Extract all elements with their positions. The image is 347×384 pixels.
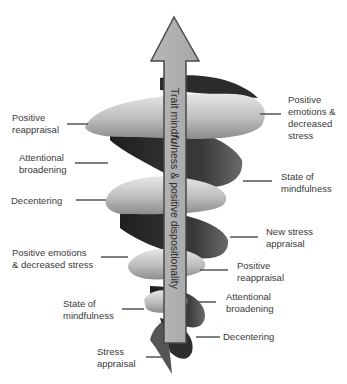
- label-attentional-broadening-upper: Attentional broadening: [19, 152, 67, 176]
- arrow-label-part-1: Trait mind: [169, 88, 181, 134]
- label-decentering-lower: Decentering: [223, 331, 274, 343]
- label-positive-reappraisal-upper: Positive reappraisal: [12, 112, 59, 136]
- label-state-of-mindfulness-upper: State of mindfulness: [281, 171, 332, 195]
- spiral-diagram: Trait mindfulness & positive disposition…: [0, 0, 347, 384]
- arrow-label: Trait mindfulness & positive disposition…: [169, 88, 181, 290]
- label-positive-emotions-upper: Positive emotions & decreased stress: [288, 94, 336, 142]
- arrow-label-part-3: ness & positive dispositionality: [169, 147, 181, 290]
- label-positive-emotions-lower: Positive emotions & decreased stress: [12, 247, 93, 271]
- label-positive-reappraisal-lower: Positive reappraisal: [237, 260, 284, 284]
- label-stress-appraisal: Stress appraisal: [97, 346, 136, 370]
- arrow-label-part-2: ful: [169, 134, 181, 148]
- label-new-stress-appraisal: New stress appraisal: [266, 226, 313, 250]
- label-state-of-mindfulness-lower: State of mindfulness: [63, 298, 114, 322]
- label-attentional-broadening-lower: Attentional broadening: [226, 291, 274, 315]
- label-decentering-upper: Decentering: [11, 195, 62, 207]
